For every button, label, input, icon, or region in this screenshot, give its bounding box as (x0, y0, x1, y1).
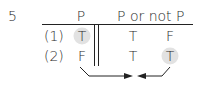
arrow-right-path (143, 67, 170, 76)
arrow-right-head (137, 73, 146, 79)
arrow-left-path (80, 67, 128, 76)
table-lines-and-arrows (0, 0, 199, 87)
arrow-left-head (124, 73, 133, 79)
